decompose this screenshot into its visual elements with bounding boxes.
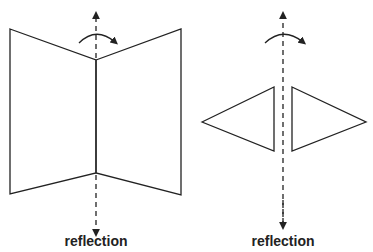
reflection-diagram — [0, 0, 373, 252]
right-plane — [96, 29, 181, 195]
right-panel — [202, 15, 366, 226]
right-triangle — [292, 87, 366, 151]
left-triangle — [202, 87, 274, 151]
right-caption: reflection — [223, 233, 343, 249]
rotation-arrow-icon — [79, 34, 115, 43]
left-panel — [10, 15, 181, 233]
rotation-arrow-icon — [265, 34, 303, 43]
left-plane — [10, 29, 96, 194]
left-caption: reflection — [36, 233, 156, 249]
